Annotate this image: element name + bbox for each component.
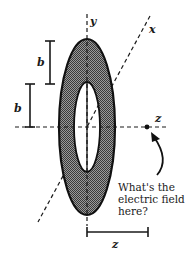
distance-label: z: [111, 238, 119, 251]
field-point-marker: [145, 125, 150, 130]
z-axis-label: z: [154, 112, 162, 125]
dimension-distance: z: [87, 227, 148, 251]
field-question-annotation: What's the electric field here?: [118, 181, 185, 217]
inner-radius-label: b: [14, 102, 22, 115]
curved-arrow-icon: [151, 132, 163, 175]
annulus-diagram: y x z b b z What's the electric field he…: [0, 0, 194, 266]
svg-text:What's the: What's the: [118, 181, 175, 193]
dimension-inner-radius: b: [14, 84, 35, 127]
svg-text:electric field: electric field: [118, 193, 185, 205]
x-axis-label: x: [148, 23, 156, 36]
dimension-ring-width: b: [37, 41, 55, 84]
y-axis-label: y: [89, 15, 98, 28]
ring-width-label: b: [37, 56, 45, 69]
svg-text:here?: here?: [118, 205, 148, 217]
